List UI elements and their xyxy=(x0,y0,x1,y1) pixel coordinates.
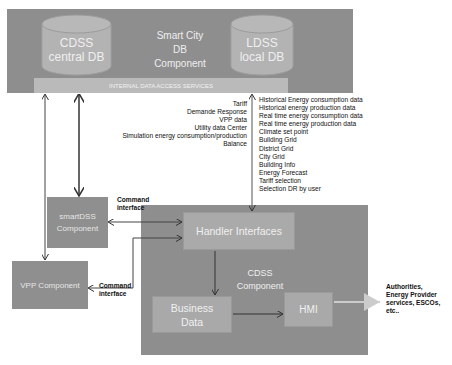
command-line-2: interface xyxy=(117,204,149,212)
vpp-handler-link xyxy=(89,238,182,288)
left-data-labels: Tariff Demande Response VPP data Utility… xyxy=(90,100,247,149)
right-label: Building Info xyxy=(259,161,363,169)
right-label: Historical Energy consumption data xyxy=(259,96,363,104)
vpp-command-interface-label: Command interface xyxy=(99,282,131,298)
right-label: Historical energy production data xyxy=(259,104,363,112)
external-line: Energy Provider xyxy=(386,291,440,299)
right-label: Building Grid xyxy=(259,136,363,144)
connector-arrows xyxy=(0,0,452,365)
left-label: VPP data xyxy=(90,116,247,124)
external-line: services, ESCOs, xyxy=(386,299,440,307)
command-line-2: interface xyxy=(99,290,131,298)
right-label: City Grid xyxy=(259,153,363,161)
left-label: Tariff xyxy=(90,100,247,108)
external-line: etc.. xyxy=(386,307,440,315)
left-label: Demande Response xyxy=(90,108,247,116)
left-label: Utility data Center xyxy=(90,124,247,132)
smartdss-command-interface-label: Command interface xyxy=(117,196,149,212)
right-label: Real time energy consumption data xyxy=(259,112,363,120)
external-line: Authorities, xyxy=(386,283,440,291)
right-label: District Grid xyxy=(259,145,363,153)
right-label: Climate set point xyxy=(259,128,363,136)
right-label: Real time energy production data xyxy=(259,120,363,128)
command-line-1: Command xyxy=(117,196,149,204)
right-data-labels: Historical Energy consumption data Histo… xyxy=(259,96,363,193)
command-line-1: Command xyxy=(99,282,131,290)
left-label: Simulation energy consumption/production xyxy=(90,132,247,140)
right-label: Energy Forecast xyxy=(259,169,363,177)
left-label: Balance xyxy=(90,140,247,148)
right-label: Tariff selection xyxy=(259,177,363,185)
right-label: Selection DR by user xyxy=(259,185,363,193)
external-actors-label: Authorities, Energy Provider services, E… xyxy=(386,283,440,315)
